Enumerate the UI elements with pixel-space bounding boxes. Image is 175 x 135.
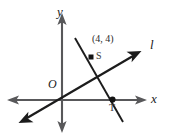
y-axis-label: y [57, 5, 63, 18]
line-l-segment [27, 56, 133, 118]
line-l-arrow-downleft [19, 112, 34, 123]
origin-label: O [48, 78, 57, 90]
geometry-figure: y x O l (4, 4) S T [0, 0, 175, 135]
point-s-label: S [96, 51, 102, 61]
x-axis-label: x [151, 92, 157, 105]
line-l-group [19, 51, 142, 123]
line-l-arrow-upright [127, 51, 142, 62]
figure-canvas [0, 0, 175, 135]
point-s-coordinate-label: (4, 4) [92, 34, 114, 44]
line-l-label: l [150, 38, 154, 51]
point-t-label: T [109, 103, 115, 113]
point-s-marker [89, 55, 94, 60]
